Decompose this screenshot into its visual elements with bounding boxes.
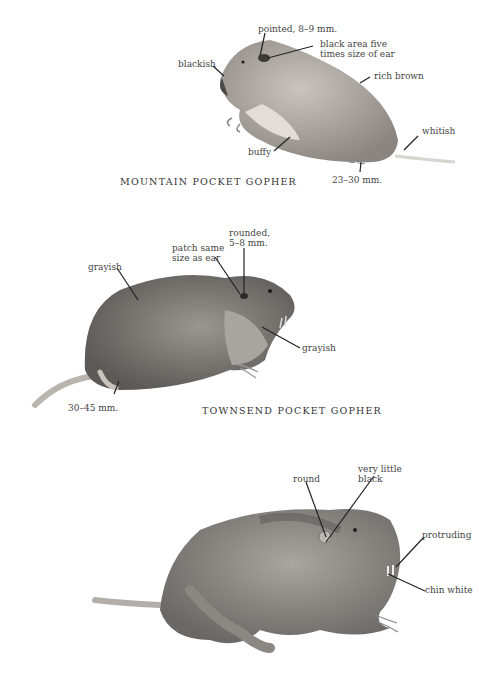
label-townsend-chest: grayish (302, 343, 336, 353)
label-mountain-belly: buffy (248, 147, 271, 157)
label-third-chin: chin white (425, 585, 473, 595)
label-townsend-patch: patch same size as ear (172, 243, 224, 263)
field-guide-plate: pointed, 8–9 mm. black area five times s… (0, 0, 479, 684)
label-townsend-foot: 30–45 mm. (68, 403, 118, 413)
caption-townsend-pocket-gopher: TOWNSEND POCKET GOPHER (202, 405, 382, 416)
townsend-pocket-gopher-illustration (35, 275, 295, 405)
label-mountain-tail: whitish (422, 126, 455, 136)
label-mountain-foot: 23–30 mm. (332, 175, 382, 185)
label-mountain-nose: blackish (178, 59, 216, 69)
label-mountain-patch: black area five times size of ear (320, 39, 395, 59)
label-townsend-ear: rounded, 5–8 mm. (229, 228, 270, 248)
gopher-illustrations (0, 0, 479, 684)
label-townsend-back: grayish (88, 262, 122, 272)
caption-mountain-pocket-gopher: MOUNTAIN POCKET GOPHER (120, 176, 297, 187)
label-third-patch: very little black (358, 464, 402, 484)
label-mountain-ear: pointed, 8–9 mm. (258, 24, 337, 34)
label-third-teeth: protruding (422, 530, 471, 540)
label-third-ear: round (293, 474, 320, 484)
large-pocket-gopher-illustration (95, 509, 400, 648)
label-mountain-back: rich brown (374, 71, 424, 81)
